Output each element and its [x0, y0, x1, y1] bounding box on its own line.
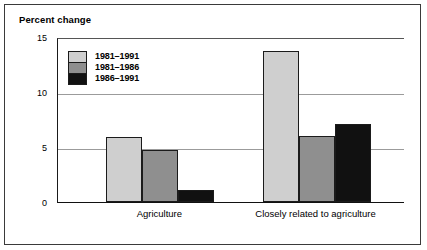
- legend-label-stack: 1981–19911981–19861986–1991: [95, 51, 139, 84]
- y-axis-tick-label: 0: [42, 199, 47, 208]
- legend-swatch: [69, 62, 86, 73]
- bar-group: [263, 39, 371, 202]
- legend-label: 1986–1991: [95, 73, 139, 84]
- category-label: Closely related to agriculture: [255, 208, 375, 219]
- bar: [178, 190, 214, 202]
- y-axis: 051015: [5, 38, 53, 203]
- chart-figure: Percent change 051015 AgricultureClosely…: [4, 4, 421, 245]
- y-axis-tick-label: 5: [42, 144, 47, 153]
- chart-title: Percent change: [19, 14, 91, 25]
- legend-label: 1981–1991: [95, 51, 139, 62]
- legend-swatch: [69, 73, 86, 84]
- legend-swatch-stack: [68, 51, 87, 85]
- legend-label: 1981–1986: [95, 62, 139, 73]
- y-axis-tick-label: 15: [37, 34, 47, 43]
- y-axis-tick-label: 10: [37, 89, 47, 98]
- bar: [335, 124, 371, 202]
- legend-swatch: [69, 52, 86, 62]
- bar: [299, 136, 335, 202]
- bar: [142, 150, 178, 202]
- category-label: Agriculture: [137, 208, 182, 219]
- chart-legend: 1981–19911981–19861986–1991: [68, 51, 139, 85]
- bar: [106, 137, 142, 202]
- category-axis-labels: AgricultureClosely related to agricultur…: [57, 208, 404, 224]
- bar: [263, 51, 299, 202]
